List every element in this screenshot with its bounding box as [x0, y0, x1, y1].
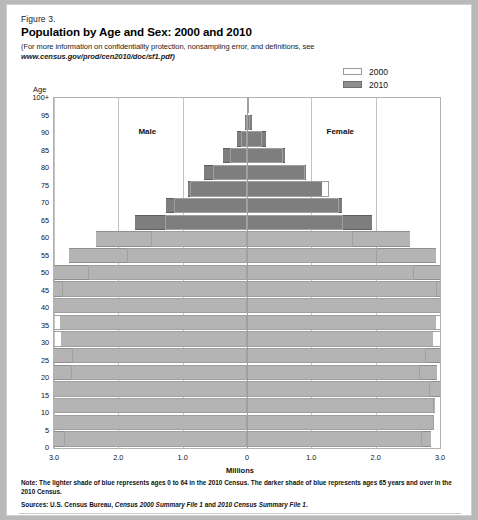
- legend-swatch-2000-icon: [343, 68, 362, 75]
- figure-page: Figure 3. Population by Age and Sex: 200…: [6, 4, 472, 516]
- bar-2000-male-35-39: [54, 315, 247, 330]
- bar-2000-male-40-44: [54, 298, 247, 313]
- y-axis-tick-75: 75: [41, 182, 49, 189]
- x-axis-tick-5: 2.0: [371, 453, 381, 462]
- bar-2000-male-10-14: [54, 398, 247, 413]
- x-axis-title: Millions: [7, 466, 473, 475]
- legend-label-2010: 2010: [369, 80, 388, 90]
- bar-2000-male-50-54: [88, 265, 247, 280]
- y-axis-tick-65: 65: [41, 217, 49, 224]
- x-axis-tick-0: 3.0: [49, 453, 59, 462]
- bar-2000-female-50-54: [247, 265, 414, 280]
- bar-2000-male-20-24: [71, 365, 247, 380]
- plot-inner-area: MaleFemale: [54, 98, 440, 448]
- y-axis-tick-90: 90: [41, 129, 49, 136]
- y-axis-tick-45: 45: [41, 287, 49, 294]
- bar-2000-female-20-24: [247, 365, 420, 380]
- bar-2000-male-55-59: [127, 248, 247, 263]
- bar-2000-female-10-14: [247, 398, 434, 413]
- bar-2000-male-30-34: [54, 331, 247, 346]
- bar-2000-female-15-19: [247, 381, 430, 396]
- figure-subtitle-line1: (For more information on confidentiality…: [21, 42, 314, 51]
- bar-2000-male-70-74: [174, 198, 247, 213]
- bar-2000-male-80-84: [213, 165, 247, 180]
- bar-2000-female-35-39: [247, 315, 440, 330]
- sources-suffix: .: [306, 501, 308, 508]
- bar-2000-female-65-69: [247, 215, 343, 230]
- sources-conjunction: and: [203, 501, 218, 508]
- legend-item-2010: 2010: [343, 78, 453, 91]
- bar-2000-female-25-29: [247, 348, 426, 363]
- bar-2000-female-60-64: [247, 231, 353, 246]
- figure-title: Population by Age and Sex: 2000 and 2010: [21, 25, 252, 38]
- y-axis-tick-100plus: 100+: [33, 94, 49, 101]
- y-axis-tick-95: 95: [41, 112, 49, 119]
- bar-2000-female-90-94: [247, 131, 262, 146]
- sources-citation-2: 2010 Census Summary File 1: [218, 501, 306, 508]
- bar-2000-male-85-89: [230, 148, 247, 163]
- y-axis-tick-30: 30: [41, 339, 49, 346]
- bar-2000-male-75-79: [190, 181, 247, 196]
- bar-2000-female-5-9: [247, 415, 434, 430]
- y-axis-tick-40: 40: [41, 304, 49, 311]
- plot-label-male: Male: [138, 127, 156, 136]
- bar-2000-female-30-34: [247, 331, 440, 346]
- figure-number: Figure 3.: [21, 14, 55, 24]
- chart-legend: 2000 2010: [343, 65, 453, 91]
- bar-2000-male-65-69: [165, 215, 247, 230]
- y-axis-tick-5: 5: [45, 427, 49, 434]
- figure-note: Note: The lighter shade of blue represen…: [21, 479, 457, 496]
- y-axis-tick-50: 50: [41, 269, 49, 276]
- y-axis-tick-85: 85: [41, 147, 49, 154]
- y-axis-tick-0: 0: [45, 444, 49, 451]
- bar-2000-female-75-79: [247, 181, 329, 196]
- figure-sources: Sources: U.S. Census Bureau, Census 2000…: [21, 501, 457, 508]
- legend-item-2000: 2000: [343, 65, 453, 78]
- bar-2000-female-95-99: [247, 115, 250, 130]
- y-axis-tick-70: 70: [41, 199, 49, 206]
- sources-citation-1: Census 2000 Summary File 1: [115, 501, 203, 508]
- y-axis-tick-15: 15: [41, 392, 49, 399]
- bar-2000-male-0-4: [64, 431, 247, 446]
- legend-swatch-2010-icon: [343, 81, 362, 88]
- x-axis-tick-2: 1.0: [178, 453, 188, 462]
- bar-2000-female-80-84: [247, 165, 305, 180]
- y-axis-tick-60: 60: [41, 234, 49, 241]
- bar-2000-female-85-89: [247, 148, 283, 163]
- footer-divider: [19, 513, 461, 514]
- y-axis-tick-25: 25: [41, 357, 49, 364]
- y-axis-tick-10: 10: [41, 409, 49, 416]
- bar-2000-female-70-74: [247, 198, 339, 213]
- x-axis-tick-6: 3.0: [435, 453, 445, 462]
- x-axis-tick-1: 2.0: [113, 453, 123, 462]
- population-pyramid-plot: MaleFemale 100+9590858075706560555045403…: [53, 97, 441, 449]
- bar-2000-male-45-49: [62, 281, 247, 296]
- bar-2000-male-15-19: [54, 381, 247, 396]
- sources-prefix: Sources: U.S. Census Bureau,: [21, 501, 115, 508]
- bar-2000-female-45-49: [247, 281, 437, 296]
- legend-label-2000: 2000: [369, 67, 388, 77]
- bar-2000-female-0-4: [247, 431, 422, 446]
- bar-2000-male-60-64: [151, 231, 247, 246]
- y-axis-tick-35: 35: [41, 322, 49, 329]
- bar-2000-female-100+: [247, 98, 249, 113]
- x-axis-tick-3: 0: [245, 453, 249, 462]
- y-axis-tick-55: 55: [41, 252, 49, 259]
- plot-label-female: Female: [326, 127, 354, 136]
- x-axis-tick-4: 1.0: [306, 453, 316, 462]
- y-axis-tick-80: 80: [41, 164, 49, 171]
- bar-2000-male-5-9: [54, 415, 247, 430]
- bar-2000-female-40-44: [247, 298, 440, 313]
- bar-2000-male-25-29: [72, 348, 247, 363]
- bar-2000-female-55-59: [247, 248, 377, 263]
- figure-subtitle-url[interactable]: www.census.gov/prod/cen2010/doc/sf1.pdf): [21, 52, 175, 61]
- y-axis-tick-20: 20: [41, 374, 49, 381]
